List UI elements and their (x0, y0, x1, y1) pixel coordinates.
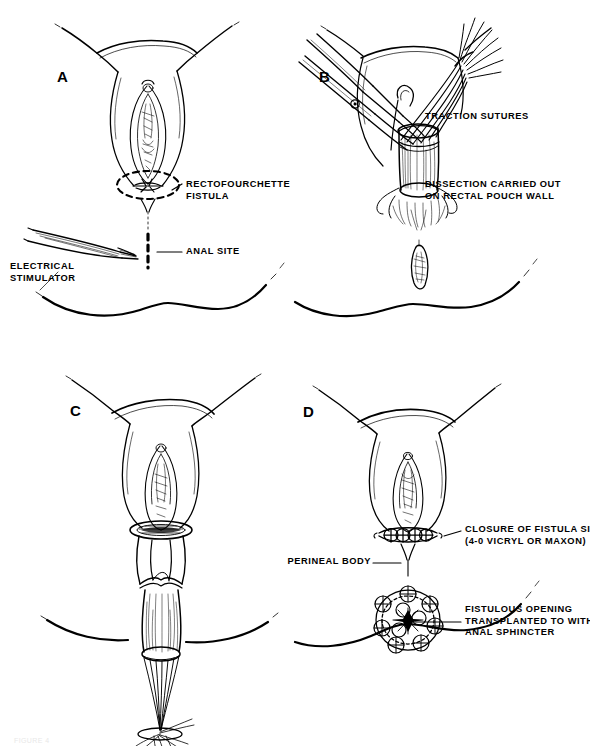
panel-d: D (295, 370, 590, 746)
panel-a-artwork (0, 0, 295, 340)
panel-b: B (295, 0, 590, 340)
panel-c-artwork (0, 370, 295, 746)
figure-caption-fragment: FIGURE 4 (14, 737, 49, 744)
label-dissection-carried-out: DISSECTION CARRIED OUT ON RECTAL POUCH W… (425, 179, 561, 202)
label-traction-sutures: TRACTION SUTURES (425, 111, 529, 123)
label-rectofourchette-fistula: RECTOFOURCHETTE FISTULA (186, 179, 290, 202)
label-perineal-body: PERINEAL BODY (285, 556, 371, 568)
label-electrical-stimulator: ELECTRICAL STIMULATOR (10, 261, 76, 284)
panel-b-artwork (295, 0, 590, 340)
label-fistulous-opening: FISTULOUS OPENING TRANSPLANTED TO WITHIN… (465, 604, 590, 639)
panel-c: C (0, 370, 295, 746)
label-anal-site: ANAL SITE (186, 246, 240, 258)
label-closure-of-fistula-site: CLOSURE OF FISTULA SITE (4-0 VICRYL OR M… (465, 524, 590, 547)
panel-a: A (0, 0, 295, 340)
